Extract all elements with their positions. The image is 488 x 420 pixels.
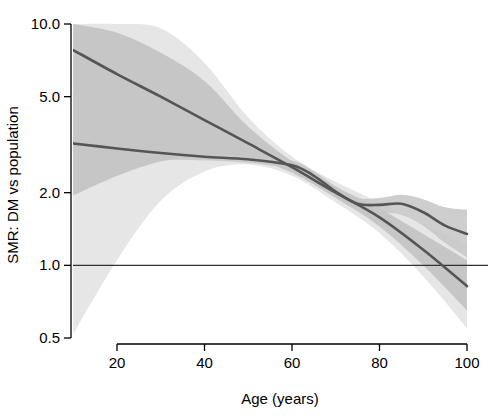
y-tick-label: 5.0 <box>39 88 60 105</box>
y-axis-tick-labels: 0.51.02.05.010.0 <box>31 15 60 346</box>
y-tick-label: 2.0 <box>39 184 60 201</box>
y-tick-label: 0.5 <box>39 329 60 346</box>
x-axis-tick-labels: 20406080100 <box>109 354 480 371</box>
smr-vs-age-chart: 0.51.02.05.010.0 20406080100 Age (years)… <box>0 0 488 420</box>
y-axis-ticks <box>64 24 71 338</box>
x-tick-label: 60 <box>284 354 301 371</box>
y-axis-title: SMR: DM vs population <box>4 106 21 264</box>
x-tick-label: 20 <box>109 354 126 371</box>
x-tick-label: 40 <box>196 354 213 371</box>
x-axis-ticks <box>117 344 467 351</box>
x-tick-label: 80 <box>371 354 388 371</box>
chart-root: 0.51.02.05.010.0 20406080100 Age (years)… <box>0 0 488 420</box>
x-axis-title: Age (years) <box>241 390 319 407</box>
confidence-bands <box>73 24 467 334</box>
y-tick-label: 10.0 <box>31 15 60 32</box>
x-tick-label: 100 <box>454 354 479 371</box>
y-tick-label: 1.0 <box>39 256 60 273</box>
